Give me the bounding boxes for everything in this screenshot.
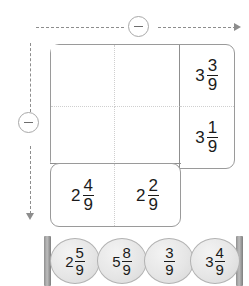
grid-cell-r1c1-dropzone[interactable] <box>51 45 115 107</box>
mixed-number: 2 5 9 <box>65 245 85 277</box>
whole-part: 5 <box>112 254 120 269</box>
grid-row-1: 3 3 9 <box>51 45 234 107</box>
fraction: 3 9 <box>164 245 174 277</box>
numerator: 3 <box>207 57 218 75</box>
token-tray: 2 5 9 5 8 9 3 9 3 4 <box>40 236 246 286</box>
mixed-number: 3 9 <box>163 245 174 277</box>
tray-token[interactable]: 2 5 9 <box>50 238 100 284</box>
minus-circle-icon-top <box>128 16 149 37</box>
grid-row-3: 2 4 9 2 2 9 <box>51 164 180 226</box>
numerator: 2 <box>148 177 159 195</box>
fraction-grid: 3 3 9 3 1 9 <box>50 44 235 227</box>
grid-cell-r2c3: 3 1 9 <box>180 107 234 169</box>
denominator: 9 <box>215 262 225 277</box>
denominator: 9 <box>148 196 159 213</box>
left-axis-dash-bottom <box>30 146 31 214</box>
fraction: 1 9 <box>207 119 218 155</box>
tray-token[interactable]: 3 4 9 <box>190 238 240 284</box>
mixed-number: 5 8 9 <box>112 245 132 277</box>
whole-part: 2 <box>65 254 73 269</box>
denominator: 9 <box>83 196 94 213</box>
grid-cell-r1c3: 3 3 9 <box>180 45 234 107</box>
mixed-number: 3 3 9 <box>195 57 218 93</box>
grid-row-2: 3 1 9 <box>51 107 234 169</box>
grid-upper-block: 3 3 9 3 1 9 <box>50 44 235 169</box>
numerator: 4 <box>215 245 225 261</box>
fraction: 3 9 <box>207 57 218 93</box>
numerator: 5 <box>75 245 85 261</box>
whole-part: 3 <box>195 129 204 146</box>
whole-part: 2 <box>71 187 80 204</box>
whole-part: 3 <box>195 67 204 84</box>
minus-circle-icon-left <box>18 112 39 133</box>
denominator: 9 <box>207 76 218 93</box>
top-axis-dash-right <box>158 27 236 28</box>
denominator: 9 <box>122 262 132 277</box>
mixed-number: 3 1 9 <box>195 119 218 155</box>
grid-lower-block: 2 4 9 2 2 9 <box>50 163 181 227</box>
grid-cell-r2c1-dropzone[interactable] <box>51 107 115 169</box>
grid-cell-r1c2-dropzone[interactable] <box>115 45 179 107</box>
whole-part: 3 <box>205 254 213 269</box>
left-axis-dash-top <box>30 43 31 112</box>
numerator: 8 <box>122 245 132 261</box>
tray-token[interactable]: 5 8 9 <box>97 238 147 284</box>
denominator: 9 <box>75 262 85 277</box>
fraction: 4 9 <box>83 177 94 213</box>
fraction: 5 9 <box>75 245 85 277</box>
mixed-number: 2 4 9 <box>71 177 94 213</box>
numerator: 4 <box>83 177 94 195</box>
fraction: 4 9 <box>215 245 225 277</box>
numerator: 3 <box>164 245 174 261</box>
fraction: 2 9 <box>148 177 159 213</box>
denominator: 9 <box>207 138 218 155</box>
left-axis-arrowhead <box>26 213 34 220</box>
top-axis-dash-left <box>36 27 124 28</box>
grid-cell-r3c1: 2 4 9 <box>51 164 115 226</box>
mixed-number: 3 4 9 <box>205 245 225 277</box>
left-axis-arrow <box>21 43 41 225</box>
tray-token[interactable]: 3 9 <box>144 238 194 284</box>
fraction: 8 9 <box>122 245 132 277</box>
grid-cell-r2c2-dropzone[interactable] <box>115 107 179 169</box>
top-axis-arrowhead <box>234 23 241 31</box>
numerator: 1 <box>207 119 218 137</box>
grid-cell-r3c2: 2 2 9 <box>115 164 180 226</box>
denominator: 9 <box>164 262 174 277</box>
mixed-number: 2 2 9 <box>136 177 159 213</box>
whole-part: 2 <box>136 187 145 204</box>
